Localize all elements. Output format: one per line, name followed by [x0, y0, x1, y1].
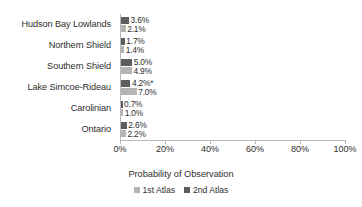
- bar-value-label: 1.0%: [125, 109, 143, 117]
- plot-area: 3.6% 2.1% 1.7% 1.4% 5.0%: [120, 14, 346, 140]
- bar-group-3: 4.2%* 7.0%: [121, 77, 346, 98]
- x-axis-title: Probability of Observation: [0, 170, 362, 179]
- bar-row-1st-atlas: 4.9%: [121, 67, 346, 75]
- bar-1st-atlas: [121, 130, 126, 137]
- bar-value-label: 2.1%: [127, 25, 145, 33]
- bar-2nd-atlas: [121, 38, 125, 45]
- x-axis-tick-label: 0%: [113, 145, 126, 154]
- chart-legend: 1st Atlas 2nd Atlas: [0, 186, 362, 195]
- bar-group-0: 3.6% 2.1%: [121, 14, 346, 35]
- bar-row-2nd-atlas: 3.6%: [121, 16, 346, 24]
- bar-2nd-atlas: [121, 59, 132, 66]
- x-axis-tick-label: 20%: [156, 145, 174, 154]
- legend-swatch-icon: [134, 187, 140, 193]
- bar-2nd-atlas: [121, 101, 123, 108]
- legend-label: 1st Atlas: [143, 186, 175, 195]
- bar-row-1st-atlas: 2.1%: [121, 25, 346, 33]
- bar-1st-atlas: [121, 88, 137, 95]
- bar-row-1st-atlas: 7.0%: [121, 88, 346, 96]
- bar-chart: Hudson Bay Lowlands Northern Shield Sout…: [0, 0, 362, 207]
- bar-row-1st-atlas: 2.2%: [121, 130, 346, 138]
- category-label-hudson-bay-lowlands: Hudson Bay Lowlands: [0, 14, 116, 35]
- bar-2nd-atlas: [121, 80, 130, 87]
- bar-row-1st-atlas: 1.0%: [121, 109, 346, 117]
- bar-1st-atlas: [121, 109, 123, 116]
- x-axis-tick-labels: 0%20%40%60%80%100%: [0, 145, 362, 157]
- bar-1st-atlas: [121, 46, 124, 53]
- x-axis-tick-label: 60%: [246, 145, 264, 154]
- bar-row-1st-atlas: 1.4%: [121, 46, 346, 54]
- bar-row-2nd-atlas: 1.7%: [121, 37, 346, 45]
- legend-item-2nd-atlas[interactable]: 2nd Atlas: [184, 186, 228, 195]
- bar-2nd-atlas: [121, 17, 129, 24]
- category-axis-labels: Hudson Bay Lowlands Northern Shield Sout…: [0, 14, 116, 140]
- bar-1st-atlas: [121, 25, 126, 32]
- category-label-ontario: Ontario: [0, 119, 116, 140]
- bar-row-2nd-atlas: 0.7%: [121, 100, 346, 108]
- legend-swatch-icon: [184, 187, 190, 193]
- bar-value-label: 2.2%: [127, 130, 145, 138]
- x-axis-tick-label: 80%: [291, 145, 309, 154]
- category-label-northern-shield: Northern Shield: [0, 35, 116, 56]
- bar-value-label: 7.0%: [138, 88, 156, 96]
- bar-group-5: 2.6% 2.2%: [121, 119, 346, 140]
- bar-value-label: 1.4%: [126, 46, 144, 54]
- x-axis-ticks: [120, 140, 346, 144]
- x-axis-tick-label: 100%: [333, 145, 356, 154]
- bar-row-2nd-atlas: 2.6%: [121, 121, 346, 129]
- bar-row-2nd-atlas: 5.0%: [121, 58, 346, 66]
- bar-group-2: 5.0% 4.9%: [121, 56, 346, 77]
- category-label-southern-shield: Southern Shield: [0, 56, 116, 77]
- legend-label: 2nd Atlas: [193, 186, 228, 195]
- legend-item-1st-atlas[interactable]: 1st Atlas: [134, 186, 175, 195]
- bar-2nd-atlas: [121, 122, 127, 129]
- bar-1st-atlas: [121, 67, 132, 74]
- category-label-carolinian: Carolinian: [0, 98, 116, 119]
- bar-value-label: 4.9%: [134, 67, 152, 75]
- category-label-lake-simcoe-rideau: Lake Simcoe-Rideau: [0, 77, 116, 98]
- x-axis-tick-label: 40%: [201, 145, 219, 154]
- bar-group-4: 0.7% 1.0%: [121, 98, 346, 119]
- bar-group-1: 1.7% 1.4%: [121, 35, 346, 56]
